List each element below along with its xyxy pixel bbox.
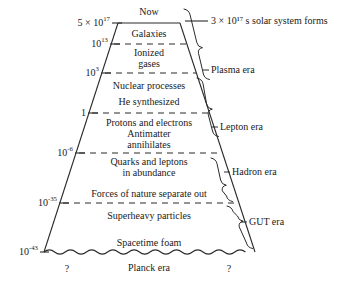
axis-mantissa: 10 <box>57 147 67 158</box>
axis-label-1e13: 1013 <box>91 39 108 50</box>
bracket-lepton-era <box>197 78 219 137</box>
axis-mantissa: 1 <box>81 107 86 118</box>
event-line-2: gases <box>134 58 164 69</box>
event-label-spacetime-foam: Spacetime foam <box>117 238 182 249</box>
axis-exponent: 13 <box>101 36 108 43</box>
cosmology-timeline-figure: Now 3 × 10¹⁷ s solar system forms 5 × 10… <box>0 0 351 284</box>
era-label-hadron: Hadron era <box>232 167 277 178</box>
axis-exponent: 17 <box>103 15 110 22</box>
trapezoid-right-edge <box>180 23 255 252</box>
event-label-superheavy-particles: Superheavy particles <box>107 211 191 222</box>
event-label-planck-era: Planck era <box>128 263 170 274</box>
axis-mantissa: 10 <box>86 67 96 78</box>
event-line-2: annihilates <box>127 139 170 150</box>
solar-system-note: 3 × 10¹⁷ s solar system forms <box>211 16 328 27</box>
axis-exponent: -43 <box>29 244 38 251</box>
axis-exponent: -6 <box>67 145 73 152</box>
event-line-1: Antimatter <box>127 128 170 139</box>
axis-exponent: 3 <box>96 65 99 72</box>
event-label-ionized-gases: Ionized gases <box>134 47 164 69</box>
event-line-1: Quarks and leptons <box>110 156 187 167</box>
axis-label-5e17: 5 × 1017 <box>78 18 110 29</box>
axis-exponent: -35 <box>48 195 57 202</box>
question-mark-right: ? <box>227 264 231 275</box>
event-label-he-synthesized: He synthesized <box>119 97 180 108</box>
axis-label-1e-43: 10-43 <box>19 247 38 258</box>
axis-mantissa: 5 × 10 <box>78 17 104 28</box>
now-label: Now <box>139 7 158 18</box>
era-label-plasma: Plasma era <box>211 65 255 76</box>
era-label-gut: GUT era <box>249 217 284 228</box>
axis-label-1e-6: 10-6 <box>57 148 73 159</box>
bracket-gut-era <box>227 206 253 249</box>
axis-label-1e-35: 10-35 <box>38 198 57 209</box>
event-line-1: Ionized <box>134 47 164 58</box>
event-label-quarks-and-leptons: Quarks and leptons in abundance <box>110 156 187 178</box>
event-label-antimatter-annihilates: Antimatter annihilates <box>127 128 170 150</box>
bracket-plasma-era <box>184 9 209 80</box>
event-label-nuclear-processes: Nuclear processes <box>113 81 185 92</box>
planck-wavy-boundary <box>44 250 245 254</box>
event-label-protons-and-electrons: Protons and electrons <box>106 118 192 129</box>
event-label-galaxies: Galaxies <box>132 29 167 40</box>
axis-mantissa: 10 <box>38 197 48 208</box>
event-label-forces-separate: Forces of nature separate out <box>91 189 207 200</box>
question-mark-left: ? <box>65 264 69 275</box>
axis-mantissa: 10 <box>19 246 29 257</box>
axis-label-1e3: 103 <box>86 68 99 79</box>
axis-mantissa: 10 <box>91 38 101 49</box>
axis-label-1: 1 <box>81 108 86 119</box>
event-line-2: in abundance <box>110 167 187 178</box>
era-label-lepton: Lepton era <box>220 122 263 133</box>
bracket-hadron-era <box>211 158 233 202</box>
